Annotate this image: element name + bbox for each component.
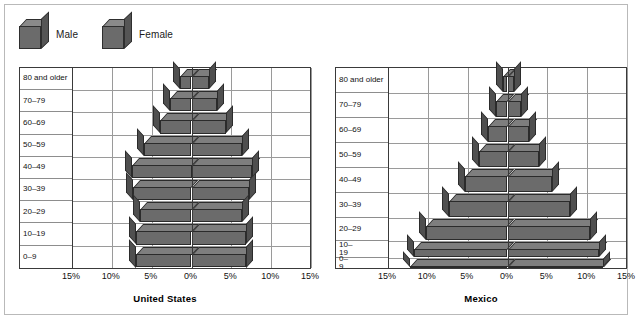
age-band-label: 20–29 [336,218,388,241]
bar-male [479,144,508,167]
x-axis-tick-label: 5% [540,271,553,281]
age-band-label: 0–9 [336,258,388,268]
bar-female [508,194,570,217]
age-band-label: 60–69 [336,118,388,143]
bar-female [192,136,242,156]
bar-female [508,219,591,240]
age-band-label: 40–49 [336,168,388,193]
bar-female [508,144,539,167]
cube-icon [19,19,49,49]
legend-label-male: Male [56,29,78,40]
x-axis-tick-label: 10% [261,271,279,281]
legend-item-male: Male [19,19,78,49]
bar-male [426,219,507,240]
bar-male [136,247,192,268]
x-axis-us: 15%10%5%0%5%10%15% [19,269,311,285]
bar-male [132,158,192,178]
age-band-label: 30–39 [20,179,72,201]
chart-title-us: United States [19,293,311,304]
age-band-label: 20–29 [20,201,72,223]
bar-male [144,136,192,156]
x-axis-tick-label: 5% [460,271,473,281]
cube-icon [102,19,132,49]
bar-male [414,242,507,257]
x-axis-tick-label: 5% [144,271,157,281]
bar-male [180,69,192,89]
bar-male [140,202,192,222]
x-axis-tick-label: 0% [500,271,513,281]
bar-female [192,91,217,111]
bar-female [508,259,604,267]
bar-female [192,224,246,244]
label-separator [72,68,73,268]
age-band-label: 70–79 [20,90,72,112]
legend-item-female: Female [102,19,173,49]
bars-area-us [72,68,310,268]
age-band-label: 80 and older [20,68,72,90]
bar-female [508,169,553,192]
bar-female [508,94,522,117]
x-axis-tick-label: 5% [224,271,237,281]
age-band-label: 50–59 [20,135,72,157]
bar-female [508,242,600,257]
vertical-gridline [271,68,272,268]
center-axis-line [508,68,509,268]
bar-female [192,180,249,200]
label-separator [388,68,389,268]
age-band-label: 50–59 [336,143,388,168]
chart-mexico: 80 and older70–7960–6950–5940–4930–3920–… [335,67,627,304]
age-band-label: 0–9 [20,246,72,269]
x-axis-tick-label: 15% [62,271,80,281]
bar-male [170,91,192,111]
x-axis-tick-label: 15% [617,271,635,281]
age-label-column-mx: 80 and older70–7960–6950–5940–4930–3920–… [336,68,388,268]
age-band-label: 60–69 [20,112,72,134]
bar-male [449,194,508,217]
chart-title-mexico: Mexico [335,293,627,304]
vertical-gridline [627,68,628,268]
bar-male [465,169,507,192]
age-band-label: 80 and older [336,68,388,93]
vertical-gridline [311,68,312,268]
legend-label-female: Female [139,29,173,40]
bar-male [133,180,191,200]
chart-legend: Male Female [19,17,197,51]
bar-female [192,158,253,178]
figure-frame: Male Female 80 and older70–7960–6950–594… [4,4,628,315]
bar-male [160,113,192,133]
bar-male [410,259,508,267]
bar-female [192,202,242,222]
bar-female [508,119,530,142]
age-band-label: 40–49 [20,157,72,179]
x-axis-tick-label: 15% [301,271,319,281]
age-band-label: 10–19 [20,223,72,245]
bar-female [192,247,246,268]
chart-united-states: 80 and older70–7960–6950–5940–4930–3920–… [19,67,311,304]
x-axis-tick-label: 10% [418,271,436,281]
plot-area-mexico: 80 and older70–7960–6950–5940–4930–3920–… [335,67,627,269]
x-axis-tick-label: 10% [577,271,595,281]
bar-male [496,94,507,117]
center-axis-line [192,68,193,268]
plot-area-united-states: 80 and older70–7960–6950–5940–4930–3920–… [19,67,311,269]
x-axis-tick-label: 0% [184,271,197,281]
bar-female [192,69,210,89]
bars-area-mx [388,68,626,268]
bar-male [488,119,507,142]
vertical-gridline [112,68,113,268]
bar-male [136,224,192,244]
x-axis-tick-label: 10% [102,271,120,281]
bar-female [192,113,226,133]
age-label-column-us: 80 and older70–7960–6950–5940–4930–3920–… [20,68,72,268]
age-band-label: 30–39 [336,193,388,218]
x-axis-tick-label: 15% [378,271,396,281]
age-band-label: 70–79 [336,93,388,118]
x-axis-mexico: 15%10%5%0%5%10%15% [335,269,627,285]
